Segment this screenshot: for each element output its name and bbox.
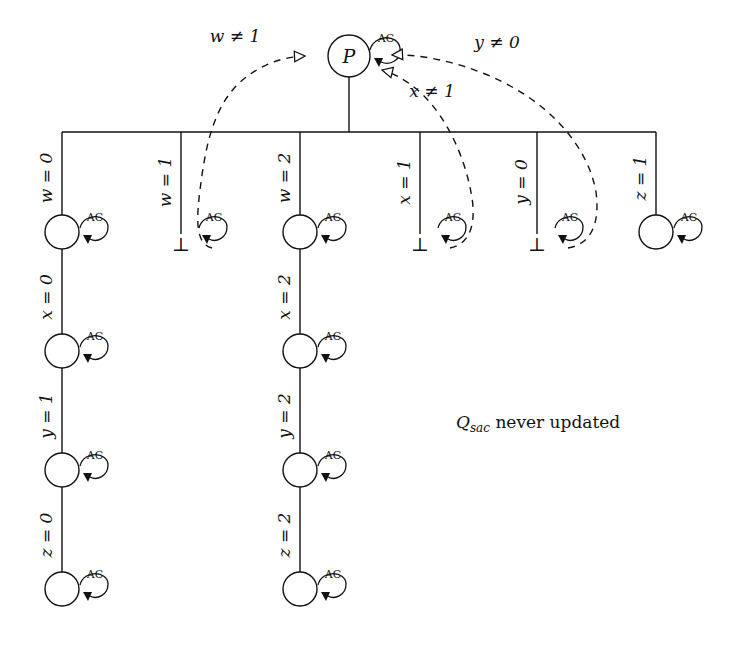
branch-z1-edge-label-0: z = 1	[630, 156, 650, 202]
branch-w2-node-0-ac-label: AC	[324, 211, 341, 224]
branch-w2-node-2[interactable]	[283, 453, 317, 487]
backjump-label-w-neq-1: w ≠ 1	[210, 26, 260, 46]
branch-z1[interactable]: z = 1 AC	[630, 132, 702, 249]
backjump-label-y-neq-0: y ≠ 0	[473, 32, 520, 52]
note-rest: never updated	[490, 412, 620, 432]
branch-y0-ac-label: AC	[561, 211, 578, 224]
branch-z1-node-0[interactable]	[639, 215, 673, 249]
root-ac-label: AC	[377, 32, 394, 45]
branch-w0-node-3[interactable]	[45, 572, 79, 606]
branch-w2-node-1[interactable]	[283, 334, 317, 368]
branch-x1-ac-label: AC	[444, 211, 461, 224]
branch-w2-edge-label-1: x = 2	[274, 274, 294, 319]
root-self-loop-ac: AC	[370, 32, 400, 67]
branch-w0-node-0-self-loop-ac: AC	[80, 211, 108, 244]
root-node-group[interactable]: P	[328, 35, 370, 77]
branch-w0-node-1-ac-label: AC	[86, 330, 103, 343]
note-group: Qsac never updated	[456, 412, 620, 435]
branch-x1-bottom-symbol: ⊥	[411, 233, 429, 255]
branch-x1-edge-label-0: x = 1	[394, 159, 414, 204]
branch-w0-node-1-self-loop-ac: AC	[80, 330, 108, 363]
branch-x1[interactable]: x = 1 ⊥ AC	[394, 132, 466, 255]
branch-w0-node-1[interactable]	[45, 334, 79, 368]
branch-w2-edge-label-0: w = 2	[274, 153, 294, 203]
branch-w2-node-1-ac-label: AC	[324, 330, 341, 343]
search-tree-diagram: P AC w = 0 AC x = 0	[0, 0, 743, 660]
branch-w2-node-0-self-loop-ac: AC	[318, 211, 346, 244]
branch-x1-self-loop-ac: AC	[438, 211, 466, 244]
branch-w2-node-2-ac-label: AC	[324, 449, 341, 462]
note-symbol-Q: Q	[456, 412, 470, 432]
backjump-label-x-neq-1: x ≠ 1	[409, 81, 454, 101]
branch-w2-node-0[interactable]	[283, 215, 317, 249]
branch-w0-node-2-self-loop-ac: AC	[80, 449, 108, 482]
root-node-label: P	[342, 45, 357, 67]
branch-w1-ac-label: AC	[205, 211, 222, 224]
branch-w0[interactable]: w = 0 AC x = 0 AC y = 1 AC	[36, 132, 108, 606]
branch-w2-node-1-self-loop-ac: AC	[318, 330, 346, 363]
diagram-canvas: P AC w = 0 AC x = 0	[0, 0, 743, 660]
branch-y0[interactable]: y = 0 ⊥ AC	[511, 132, 583, 255]
branch-w2[interactable]: w = 2 AC x = 2 AC y = 2 AC	[274, 132, 346, 606]
branch-w0-node-3-self-loop-ac: AC	[80, 568, 108, 601]
branch-w1-edge-label-0: w = 1	[155, 157, 175, 207]
branch-w2-node-2-self-loop-ac: AC	[318, 449, 346, 482]
branch-w0-edge-label-1: x = 0	[36, 274, 56, 320]
branch-w1-bottom-symbol: ⊥	[172, 233, 190, 255]
branch-w2-node-3-ac-label: AC	[324, 568, 341, 581]
branch-y0-edge-label-0: y = 0	[511, 159, 531, 206]
branch-w1-self-loop-ac: AC	[199, 211, 227, 244]
branch-w1[interactable]: w = 1 ⊥ AC	[155, 132, 227, 255]
branch-w2-edge-label-2: y = 2	[274, 393, 294, 439]
branch-w0-edge-label-2: y = 1	[36, 393, 56, 439]
branch-w0-node-0-ac-label: AC	[86, 211, 103, 224]
branch-w2-node-3-self-loop-ac: AC	[318, 568, 346, 601]
branch-z1-node-0-ac-label: AC	[680, 211, 697, 224]
branch-y0-self-loop-ac: AC	[555, 211, 583, 244]
branch-w0-edge-label-3: z = 0	[36, 512, 56, 558]
note-text: Qsac never updated	[456, 412, 620, 435]
branch-w0-node-2[interactable]	[45, 453, 79, 487]
branch-y0-bottom-symbol: ⊥	[528, 233, 546, 255]
branch-w2-edge-label-3: z = 2	[274, 513, 294, 559]
branch-w0-edge-label-0: w = 0	[36, 153, 56, 204]
note-subscript-sac: sac	[470, 421, 490, 435]
branch-w0-node-0[interactable]	[45, 215, 79, 249]
branch-z1-node-0-self-loop-ac: AC	[674, 211, 702, 244]
branch-w2-node-3[interactable]	[283, 572, 317, 606]
branch-w0-node-2-ac-label: AC	[86, 449, 103, 462]
branch-w0-node-3-ac-label: AC	[86, 568, 103, 581]
